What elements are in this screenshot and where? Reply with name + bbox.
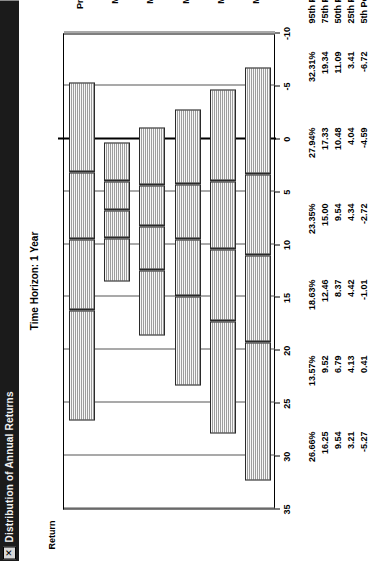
- axis-baseline: [274, 34, 275, 508]
- box-segment: [210, 181, 236, 249]
- axis-tick: [275, 402, 280, 403]
- box-segment: [245, 255, 271, 342]
- axis-tick-label: 35: [282, 495, 292, 523]
- table-cell: -6.72: [359, 51, 369, 121]
- axis-tick: [275, 244, 280, 245]
- box-row: [175, 32, 201, 508]
- box-segment: [69, 82, 95, 172]
- gridline: [64, 348, 275, 349]
- box-segment: [139, 185, 165, 227]
- table-cell: 8.37: [333, 279, 343, 349]
- table-cell: 18.63%: [307, 279, 317, 349]
- category-label-mix-2: Mix 2: [145, 0, 155, 27]
- axis-tick: [275, 32, 280, 33]
- box-segment: [245, 67, 271, 174]
- axis-tick-label: -5: [282, 72, 292, 100]
- box-segment: [245, 342, 271, 479]
- table-cell: 6.79: [333, 355, 343, 425]
- axis-tick: [275, 296, 280, 297]
- gridline: [64, 401, 275, 402]
- table-cell: 27.94%: [307, 127, 317, 197]
- axis-tick-label: 10: [282, 231, 292, 259]
- table-cell: 9.54: [333, 203, 343, 273]
- gridline: [64, 31, 275, 32]
- window-title: Distribution of Annual Returns: [4, 391, 15, 542]
- box-segment: [104, 210, 130, 239]
- box-segment: [139, 226, 165, 269]
- close-icon[interactable]: ✕: [3, 546, 16, 559]
- axis-tick-label: 25: [282, 389, 292, 417]
- table-cell: 17.33: [320, 127, 330, 197]
- table-cell: 10.48: [333, 127, 343, 197]
- percentile-row-label: 95th Pctl: [307, 0, 317, 23]
- window-body: Time Horizon: 1 Year Return 353025201510…: [19, 0, 392, 561]
- box-segment: [69, 239, 95, 310]
- box-segment: [245, 174, 271, 255]
- table-cell: 9.54: [333, 431, 343, 501]
- gridline: [64, 190, 275, 191]
- table-cell: 4.13: [346, 355, 356, 425]
- window-titlebar: ✕ Distribution of Annual Returns: [0, 0, 19, 561]
- box-segment: [210, 249, 236, 321]
- box-row: [245, 32, 271, 508]
- axis-tick: [275, 85, 280, 86]
- box-segment: [69, 310, 95, 420]
- table-cell: 13.57%: [307, 355, 317, 425]
- axis-tick: [275, 349, 280, 350]
- axis-tick-label: 0: [282, 125, 292, 153]
- table-cell: 12.46: [320, 279, 330, 349]
- gridline: [64, 84, 275, 85]
- table-cell: 3.21: [346, 431, 356, 501]
- box-segment: [104, 181, 130, 209]
- gridline: [64, 507, 275, 508]
- category-label-mix-4: Mix 4: [216, 0, 226, 27]
- box-segment: [175, 184, 201, 239]
- gridline: [64, 454, 275, 455]
- plot-area: [63, 33, 275, 509]
- table-cell: 23.35%: [307, 203, 317, 273]
- table-cell: 15.00: [320, 203, 330, 273]
- table-cell: 3.41: [346, 51, 356, 121]
- table-cell: 32.31%: [307, 51, 317, 121]
- table-cell: -1.01: [359, 279, 369, 349]
- percentile-row-label: 25th Pctl: [346, 0, 356, 23]
- percentile-row-label: 5th Pctl: [359, 0, 369, 23]
- table-cell: 4.42: [346, 279, 356, 349]
- table-cell: -4.59: [359, 127, 369, 197]
- data-table: 26.66%13.57%18.63%23.35%27.94%32.31%95th…: [307, 0, 387, 561]
- axis-tick-label: 15: [282, 283, 292, 311]
- category-label-mix-1: Mix 1: [110, 0, 120, 27]
- gridline: [64, 295, 275, 296]
- table-cell: -2.72: [359, 203, 369, 273]
- axis-tick: [275, 508, 280, 509]
- table-cell: 26.66%: [307, 431, 317, 501]
- box-segment: [175, 239, 201, 297]
- box-row: [69, 32, 95, 508]
- table-cell: -5.27: [359, 431, 369, 501]
- category-label-mix-5: Mix 5: [251, 0, 261, 27]
- table-cell: 9.52: [320, 355, 330, 425]
- box-segment: [210, 89, 236, 180]
- box-segment: [139, 270, 165, 335]
- box-segment: [175, 296, 201, 384]
- box-segment: [139, 127, 165, 184]
- percentile-row-label: 75th Pctl: [320, 0, 330, 23]
- box-segment: [104, 142, 130, 181]
- y-axis-title: Return: [47, 520, 57, 549]
- axis-tick-label: 20: [282, 336, 292, 364]
- box-segment: [69, 172, 95, 239]
- table-cell: 0.41: [359, 355, 369, 425]
- chart-title: Time Horizon: 1 Year: [29, 0, 40, 561]
- category-label-present: Present: [75, 0, 85, 27]
- box-segment: [210, 321, 236, 433]
- box-segment: [175, 109, 201, 184]
- table-cell: 11.09: [333, 51, 343, 121]
- chart-window: ✕ Distribution of Annual Returns Time Ho…: [0, 0, 392, 561]
- box-row: [139, 32, 165, 508]
- table-cell: 19.34: [320, 51, 330, 121]
- table-cell: 4.04: [346, 127, 356, 197]
- axis-tick-label: 5: [282, 178, 292, 206]
- table-cell: 16.25: [320, 431, 330, 501]
- axis-tick-label: -10: [282, 19, 292, 47]
- gridline: [64, 243, 275, 244]
